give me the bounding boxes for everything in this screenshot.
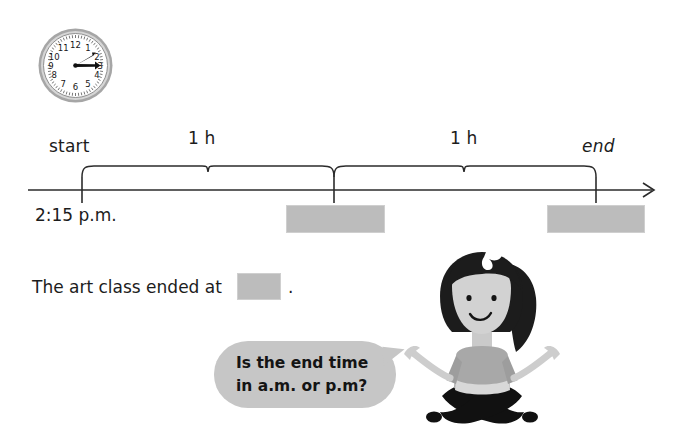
svg-text:11: 11 bbox=[58, 43, 69, 53]
svg-text:12: 12 bbox=[70, 40, 81, 50]
timeline-end-label: end bbox=[582, 136, 615, 156]
duration-label-1: 1 h bbox=[188, 128, 216, 148]
arm-left bbox=[412, 352, 450, 378]
svg-text:9: 9 bbox=[48, 61, 53, 71]
analog-clock: 12 1 2 3 4 5 6 7 8 9 10 11 bbox=[37, 27, 114, 104]
answer-blank[interactable] bbox=[237, 273, 281, 300]
timeline-start-label: start bbox=[49, 136, 90, 156]
svg-text:5: 5 bbox=[85, 79, 90, 89]
answer-sentence: The art class ended at bbox=[32, 277, 222, 297]
svg-text:8: 8 bbox=[51, 70, 56, 80]
eye-right bbox=[491, 295, 496, 301]
eye-left bbox=[466, 295, 471, 301]
duration-label-2: 1 h bbox=[450, 128, 478, 148]
svg-text:4: 4 bbox=[94, 70, 99, 80]
speech-bubble-line-2: in a.m. or p.m? bbox=[236, 375, 367, 397]
clock-center-pin bbox=[73, 63, 78, 68]
svg-text:7: 7 bbox=[60, 79, 65, 89]
timeline-blank-end[interactable] bbox=[547, 205, 645, 233]
speech-bubble: Is the end time in a.m. or p.m? bbox=[214, 341, 396, 408]
girl-character-illustration bbox=[390, 246, 576, 442]
svg-text:6: 6 bbox=[73, 82, 78, 92]
duration-brace-2 bbox=[334, 166, 596, 177]
timeline-start-time: 2:15 p.m. bbox=[35, 205, 117, 225]
speech-bubble-text: Is the end time in a.m. or p.m? bbox=[214, 341, 396, 408]
timeline-ticks bbox=[82, 177, 596, 203]
foot-left bbox=[426, 412, 442, 423]
svg-text:10: 10 bbox=[49, 52, 60, 62]
timeline-blank-middle[interactable] bbox=[286, 205, 385, 233]
speech-bubble-line-1: Is the end time bbox=[236, 352, 368, 374]
arm-right bbox=[514, 352, 552, 378]
worksheet-canvas: 12 1 2 3 4 5 6 7 8 9 10 11 bbox=[0, 0, 677, 442]
svg-text:1: 1 bbox=[85, 43, 90, 53]
duration-brace-1 bbox=[82, 166, 334, 177]
foot-right bbox=[522, 412, 538, 423]
timeline-axis bbox=[28, 183, 654, 197]
sentence-period: . bbox=[288, 277, 293, 297]
